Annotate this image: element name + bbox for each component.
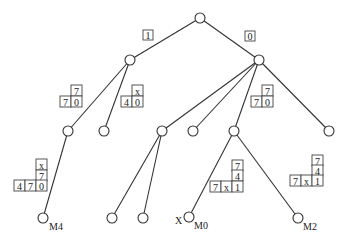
leaf-label: M2	[303, 221, 317, 232]
leaf-labels: M4XM0M2	[49, 215, 317, 232]
tree-node-n0c	[229, 126, 239, 136]
tree-node-root	[195, 13, 205, 23]
tree-node-m0	[184, 212, 194, 222]
edge-label: 1	[143, 30, 153, 41]
tree-node-n0a	[157, 126, 167, 136]
svg-text:x: x	[135, 86, 140, 97]
tree-node-n1a	[63, 126, 73, 136]
tree-edge	[234, 131, 298, 218]
state-boxes: 770x40770x7470747x1747x1	[14, 85, 323, 193]
tree-diagram: 10 770x40770x7470747x1747x1 M4XM0M2	[0, 0, 344, 240]
tree-node-n1b	[99, 126, 109, 136]
tree-edge	[162, 60, 259, 131]
tree-nodes	[38, 13, 334, 223]
tree-edge	[130, 18, 200, 60]
svg-text:1: 1	[315, 176, 320, 187]
svg-text:7: 7	[293, 176, 298, 187]
box-n0c: 770	[251, 85, 273, 108]
svg-text:0: 0	[135, 97, 140, 108]
svg-text:7: 7	[254, 97, 259, 108]
box-n1b: x40	[121, 85, 143, 108]
edge-labels: 10	[143, 30, 255, 42]
edge-label: 0	[245, 31, 255, 42]
svg-text:0: 0	[74, 97, 79, 108]
tree-node-m4	[38, 213, 48, 223]
svg-text:4: 4	[124, 97, 129, 108]
box-M4: x7470	[14, 159, 47, 192]
box-n1a: 770	[60, 85, 82, 108]
tree-edge	[234, 60, 259, 131]
svg-text:4: 4	[17, 181, 22, 192]
svg-text:7: 7	[28, 181, 33, 192]
tree-node-n1	[125, 55, 135, 65]
svg-text:x: x	[224, 182, 229, 193]
svg-text:4: 4	[235, 171, 240, 182]
tree-edge	[112, 131, 162, 218]
svg-text:1: 1	[146, 30, 151, 41]
leaf-label: X	[175, 215, 183, 226]
leaf-label: M0	[194, 220, 208, 231]
svg-text:x: x	[39, 160, 44, 171]
svg-text:0: 0	[39, 181, 44, 192]
svg-text:7: 7	[265, 86, 270, 97]
tree-edge	[143, 131, 162, 218]
tree-node-n0	[254, 55, 264, 65]
tree-node-m2	[293, 213, 303, 223]
svg-text:0: 0	[265, 97, 270, 108]
svg-text:7: 7	[213, 182, 218, 193]
svg-text:7: 7	[63, 97, 68, 108]
tree-edges	[43, 18, 329, 218]
tree-node-n0d	[324, 126, 334, 136]
svg-text:x: x	[304, 176, 309, 187]
box-M2: 747x1	[290, 155, 323, 187]
tree-node-leafa	[107, 213, 117, 223]
tree-edge	[193, 60, 259, 131]
tree-node-n0b	[188, 126, 198, 136]
tree-edge	[189, 131, 234, 217]
leaf-label: M4	[49, 221, 63, 232]
svg-text:1: 1	[235, 182, 240, 193]
box-M0: 747x1	[210, 160, 243, 193]
svg-text:0: 0	[248, 31, 253, 42]
svg-text:7: 7	[74, 86, 79, 97]
tree-edge	[104, 60, 130, 131]
tree-node-leafb	[138, 213, 148, 223]
